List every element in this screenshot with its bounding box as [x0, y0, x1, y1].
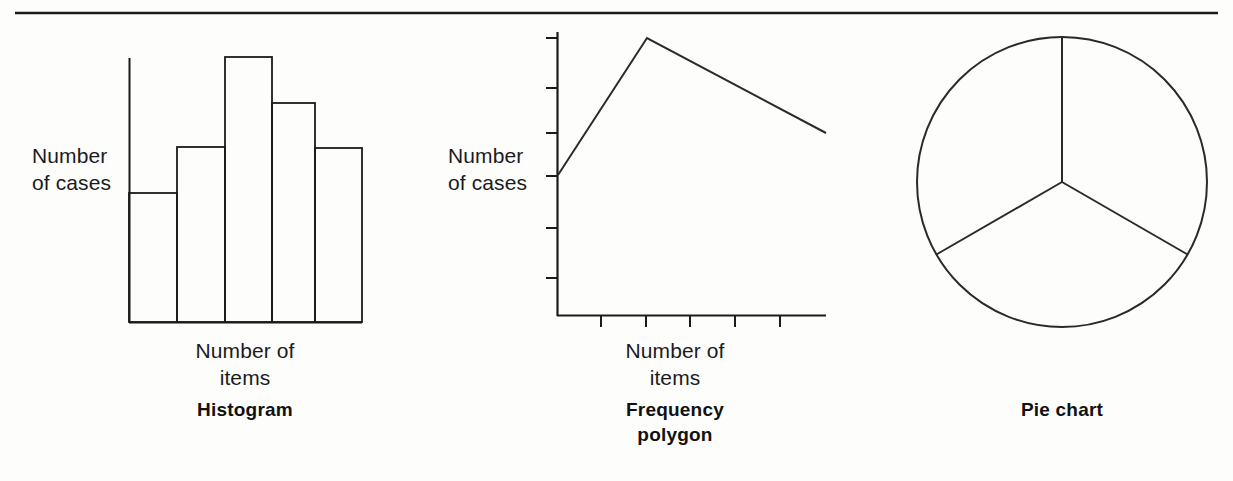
- histogram-bar: [177, 147, 225, 322]
- frequency-polygon-chart: [546, 32, 826, 327]
- histogram-x-axis-label: Number of items: [155, 337, 335, 391]
- frequency-polygon-line: [558, 38, 826, 175]
- frequency-polygon-caption: Frequency polygon: [605, 397, 745, 447]
- pie-divider: [936, 182, 1062, 255]
- figure-container: Number of cases Number of items Histogra…: [0, 0, 1233, 481]
- histogram-bar: [129, 193, 177, 322]
- histogram-bars: [129, 57, 362, 322]
- histogram-chart: [129, 57, 362, 323]
- histogram-bar: [272, 103, 315, 322]
- frequency-polygon-x-ticks: [601, 315, 780, 327]
- frequency-polygon-x-axis-label: Number of items: [585, 337, 765, 391]
- histogram-caption: Histogram: [175, 397, 315, 422]
- pie-chart-caption: Pie chart: [992, 397, 1132, 422]
- histogram-y-axis-label: Number of cases: [32, 142, 111, 196]
- histogram-bar: [315, 148, 362, 322]
- frequency-polygon-y-axis-label: Number of cases: [448, 142, 527, 196]
- frequency-polygon-y-ticks: [546, 38, 558, 278]
- pie-chart: [917, 37, 1207, 327]
- histogram-bar: [225, 57, 272, 322]
- pie-divider: [1062, 182, 1188, 255]
